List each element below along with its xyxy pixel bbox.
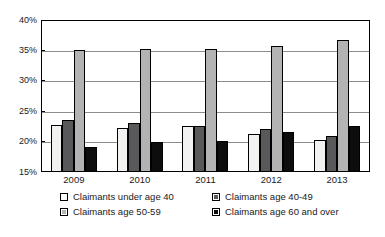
- chart-legend: Claimants under age 40Claimants age 40-4…: [60, 192, 370, 224]
- legend-item[interactable]: Claimants under age 40: [60, 192, 174, 202]
- bar: [151, 142, 163, 172]
- bar: [62, 120, 74, 172]
- bar: [283, 132, 295, 172]
- y-axis-tick-label: 35%: [3, 46, 37, 55]
- bar: [337, 40, 349, 172]
- bar: [140, 49, 152, 172]
- bar-group: [41, 20, 107, 172]
- chart-title-cutoff: [28, 0, 358, 3]
- legend-item[interactable]: Claimants age 50-59: [60, 207, 161, 217]
- bar: [128, 123, 140, 172]
- y-axis-tick-mark: [41, 141, 45, 142]
- y-axis-tick-label: 25%: [3, 107, 37, 116]
- y-axis-tick-label: 15%: [3, 168, 37, 177]
- bar: [194, 126, 206, 172]
- legend-item-label: Claimants under age 40: [73, 192, 174, 202]
- black-square-icon: [212, 208, 220, 216]
- x-axis-tick-label: 2009: [41, 174, 107, 186]
- bar: [314, 140, 326, 172]
- bar: [326, 136, 338, 172]
- y-axis-tick-label: 40%: [3, 16, 37, 25]
- x-axis: 20092010201120122013: [41, 174, 370, 188]
- legend-item[interactable]: Claimants age 60 and over: [212, 207, 339, 217]
- y-axis-tick-mark: [41, 80, 45, 81]
- legend-item-label: Claimants age 50-59: [73, 207, 161, 217]
- bar: [271, 46, 283, 172]
- bar: [117, 128, 129, 172]
- bar: [248, 134, 260, 172]
- bar-group: [238, 20, 304, 172]
- x-axis-tick-label: 2012: [238, 174, 304, 186]
- legend-item-label: Claimants age 60 and over: [225, 207, 339, 217]
- bar: [260, 129, 272, 172]
- dark-gray-square-icon: [212, 193, 220, 201]
- bar-group: [107, 20, 173, 172]
- grouped-bar-chart: 15%20%25%30%35%40% 20092010201120122013 …: [0, 0, 385, 237]
- y-axis-tick-mark: [41, 111, 45, 112]
- x-axis-tick-label: 2010: [107, 174, 173, 186]
- bar: [85, 147, 97, 172]
- bar: [349, 126, 361, 172]
- bar: [205, 49, 217, 172]
- bar-group: [173, 20, 239, 172]
- x-axis-tick-label: 2011: [173, 174, 239, 186]
- bar-group: [304, 20, 370, 172]
- light-gray-square-icon: [60, 208, 68, 216]
- bar: [182, 126, 194, 172]
- y-axis-tick-label: 30%: [3, 76, 37, 85]
- legend-item[interactable]: Claimants age 40-49: [212, 192, 313, 202]
- bar: [51, 125, 63, 172]
- bars-layer: [41, 20, 370, 172]
- y-axis: 15%20%25%30%35%40%: [0, 20, 37, 172]
- y-axis-tick-mark: [41, 50, 45, 51]
- y-axis-tick-label: 20%: [3, 137, 37, 146]
- x-axis-tick-label: 2013: [304, 174, 370, 186]
- bar: [74, 50, 86, 172]
- bar: [217, 141, 229, 172]
- legend-item-label: Claimants age 40-49: [225, 192, 313, 202]
- white-square-icon: [60, 193, 68, 201]
